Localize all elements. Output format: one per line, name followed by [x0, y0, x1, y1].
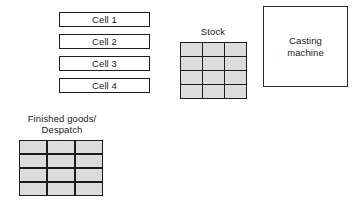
stock-grid-cell — [181, 57, 202, 70]
finished-goods-grid-cell — [76, 155, 102, 167]
stock-grid-cell — [181, 85, 202, 98]
stock-grid-cell — [225, 57, 246, 70]
cell-box-3: Cell 3 — [59, 56, 150, 71]
stock-grid-cell — [225, 85, 246, 98]
stock-grid-cell — [181, 43, 202, 56]
cell-box-4: Cell 4 — [59, 78, 150, 93]
stock-grid-cell — [203, 57, 224, 70]
finished-goods-grid-cell — [76, 141, 102, 153]
finished-goods-grid-cell — [48, 169, 74, 181]
finished-goods-grid-cell — [20, 169, 46, 181]
finished-goods-grid-cell — [76, 183, 102, 195]
stock-grid-cell — [225, 71, 246, 84]
cell-box-4-label: Cell 4 — [92, 81, 117, 91]
finished-goods-grid-cell — [20, 155, 46, 167]
stock-grid-cell — [203, 71, 224, 84]
cell-box-1-label: Cell 1 — [92, 15, 117, 25]
finished-goods-grid-cell — [48, 183, 74, 195]
finished-goods-grid-cell — [48, 141, 74, 153]
cell-box-2: Cell 2 — [59, 34, 150, 49]
finished-goods-grid-cell — [20, 141, 46, 153]
finished-goods-grid-cell — [48, 155, 74, 167]
casting-machine-label: Casting machine — [287, 35, 324, 58]
stock-grid-cell — [181, 71, 202, 84]
finished-goods-label: Finished goods/ Despatch — [10, 113, 114, 135]
stock-grid — [180, 42, 247, 99]
factory-layout-diagram: Cell 1 Cell 2 Cell 3 Cell 4 Stock Castin… — [0, 0, 362, 209]
cell-box-2-label: Cell 2 — [92, 37, 117, 47]
cell-box-1: Cell 1 — [59, 12, 150, 27]
finished-goods-grid-cell — [20, 183, 46, 195]
stock-label: Stock — [178, 26, 248, 37]
stock-grid-cell — [225, 43, 246, 56]
finished-goods-grid — [19, 140, 103, 196]
stock-grid-cell — [203, 85, 224, 98]
casting-machine-box: Casting machine — [263, 6, 348, 87]
cell-box-3-label: Cell 3 — [92, 59, 117, 69]
stock-grid-cell — [203, 43, 224, 56]
finished-goods-grid-cell — [76, 169, 102, 181]
